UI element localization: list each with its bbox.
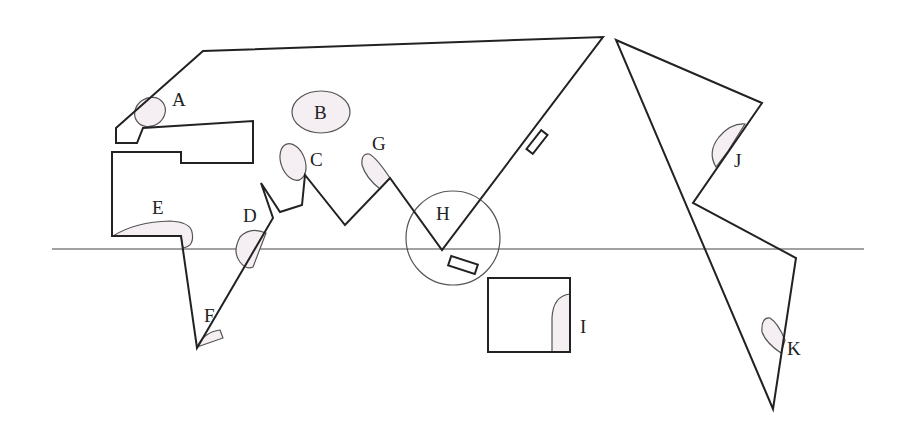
label-k: K bbox=[787, 338, 801, 359]
right-landmass-outline bbox=[616, 40, 796, 409]
label-f: F bbox=[204, 305, 215, 326]
region-e bbox=[113, 221, 193, 248]
region-f bbox=[197, 330, 223, 347]
main-landmass-outline bbox=[112, 37, 603, 348]
region-i bbox=[552, 294, 570, 352]
label-h: H bbox=[436, 203, 450, 224]
schematic-map-diagram: A B C D E F G H I J K bbox=[0, 0, 899, 443]
label-c: C bbox=[310, 149, 323, 170]
label-i: I bbox=[580, 316, 586, 337]
label-e: E bbox=[152, 197, 164, 218]
label-g: G bbox=[372, 133, 386, 154]
label-d: D bbox=[243, 205, 257, 226]
region-h-circle bbox=[406, 191, 500, 285]
label-j: J bbox=[734, 150, 741, 171]
label-b: B bbox=[314, 102, 327, 123]
island-bar-lower bbox=[448, 256, 478, 274]
label-a: A bbox=[172, 89, 186, 110]
